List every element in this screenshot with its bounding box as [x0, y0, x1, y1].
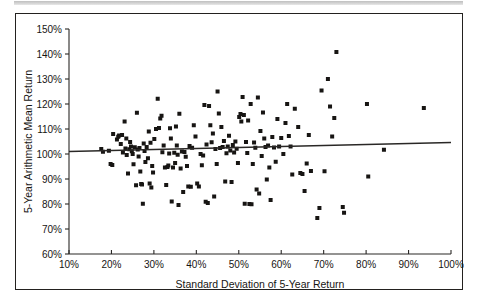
data-point [260, 154, 264, 158]
data-point [281, 152, 285, 156]
data-point [192, 123, 196, 127]
data-point [171, 166, 175, 170]
data-point [285, 102, 289, 106]
data-point [205, 143, 209, 147]
data-point [274, 160, 278, 164]
data-point [224, 151, 228, 155]
data-point [265, 178, 269, 182]
data-point [279, 136, 283, 140]
x-axis-title: Standard Deviation of 5-Year Return [176, 278, 345, 290]
data-point [365, 102, 369, 106]
data-point [305, 162, 309, 166]
data-point [156, 97, 160, 101]
y-axis-tick-label: 60% [42, 249, 62, 260]
data-point [179, 167, 183, 171]
data-point [142, 142, 146, 146]
data-point [206, 201, 210, 205]
data-point [164, 183, 168, 187]
data-point [182, 150, 186, 154]
data-point [126, 172, 130, 176]
data-point [162, 144, 166, 148]
data-point [269, 198, 273, 202]
data-point [231, 143, 235, 147]
data-point [223, 180, 227, 184]
figure-root: 60%70%80%90%100%110%120%130%140%150%10%2… [0, 0, 479, 303]
data-point [245, 151, 249, 155]
top-rule-divider [14, 1, 463, 5]
data-point [261, 111, 265, 115]
data-point [148, 141, 152, 145]
data-point [193, 135, 197, 139]
data-point [174, 125, 178, 129]
data-point [246, 119, 250, 123]
data-point [320, 89, 324, 93]
x-axis-tick-label: 10% [59, 259, 79, 270]
data-point [141, 202, 145, 206]
data-point [239, 120, 243, 124]
data-point [236, 161, 240, 165]
x-axis-tick-label: 90% [399, 259, 419, 270]
data-point [177, 112, 181, 116]
data-point [176, 153, 180, 157]
data-point [177, 203, 181, 207]
data-point [326, 77, 330, 81]
data-point [134, 183, 138, 187]
data-point [140, 183, 144, 187]
data-point [216, 90, 220, 94]
data-point [382, 148, 386, 152]
data-point [129, 145, 133, 149]
data-point [202, 103, 206, 107]
data-point [243, 202, 247, 206]
data-point [300, 172, 304, 176]
data-point [242, 113, 246, 117]
data-point [185, 164, 189, 168]
data-point [150, 164, 154, 168]
x-axis-tick-label: 50% [229, 259, 249, 270]
data-point [208, 123, 212, 127]
data-point [219, 125, 223, 129]
data-point [212, 195, 216, 199]
data-point [207, 104, 211, 108]
data-point [128, 140, 132, 144]
data-point [232, 151, 236, 155]
data-point [296, 125, 300, 129]
data-point [270, 135, 274, 139]
data-point [147, 130, 151, 134]
y-axis-tick-label: 110% [37, 124, 62, 135]
y-axis-tick-label: 130% [36, 74, 62, 85]
data-point [255, 188, 259, 192]
data-point [256, 96, 260, 100]
data-point [230, 180, 234, 184]
data-point [120, 133, 124, 137]
data-point [169, 137, 173, 141]
data-point [170, 200, 174, 204]
data-point [124, 137, 128, 141]
x-axis-tick-label: 40% [186, 259, 206, 270]
data-point [145, 145, 149, 149]
data-point [152, 137, 156, 141]
data-point [228, 149, 232, 153]
data-point [342, 211, 346, 215]
x-axis-tick-label: 70% [314, 259, 334, 270]
data-point [334, 50, 338, 54]
data-point [125, 153, 129, 157]
chart-frame: 60%70%80%90%100%110%120%130%140%150%10%2… [15, 13, 463, 290]
x-axis-tick-label: 100% [438, 259, 464, 270]
data-point [249, 102, 253, 106]
y-axis-tick-label: 70% [42, 224, 62, 235]
data-point [293, 107, 297, 111]
data-point [146, 156, 150, 160]
data-point [148, 182, 152, 186]
data-point [215, 162, 219, 166]
data-point [366, 175, 370, 179]
data-point [233, 140, 237, 144]
x-axis-tick-label: 20% [101, 259, 121, 270]
data-point [121, 151, 125, 155]
data-point [201, 154, 205, 158]
data-point [138, 170, 142, 174]
data-point [251, 162, 255, 166]
data-point [258, 129, 262, 133]
data-point [157, 126, 161, 130]
data-point [267, 166, 271, 170]
data-point [110, 163, 114, 167]
